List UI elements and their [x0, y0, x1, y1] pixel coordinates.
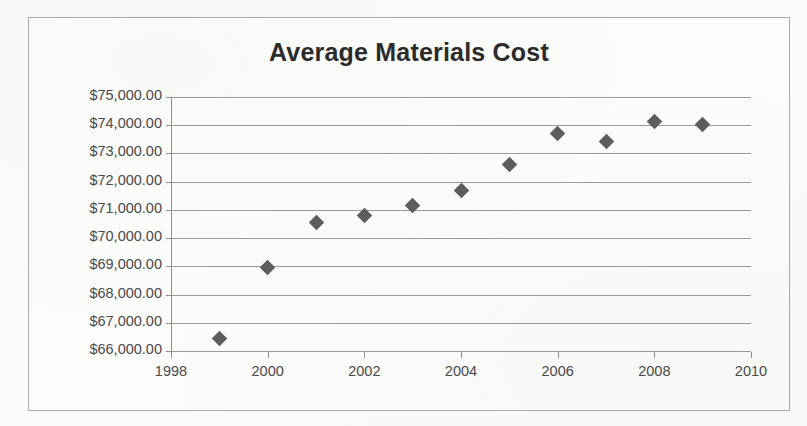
y-axis-tick — [166, 125, 172, 126]
y-axis-tick-label: $71,000.00 — [89, 200, 162, 216]
y-axis-tick — [166, 97, 172, 98]
y-axis-tick — [166, 182, 172, 183]
y-axis-tick-label: $75,000.00 — [89, 87, 162, 103]
y-axis-tick — [166, 153, 172, 154]
gridline-horizontal — [171, 266, 751, 267]
data-point-marker — [647, 114, 663, 130]
data-point-marker — [260, 260, 276, 276]
x-axis-tick-label: 1998 — [141, 363, 201, 379]
x-axis-tick-label: 2010 — [721, 363, 781, 379]
y-axis-tick-label: $67,000.00 — [89, 313, 162, 329]
data-point-marker — [308, 214, 324, 230]
x-axis-tick — [751, 352, 752, 358]
x-axis-tick — [654, 352, 655, 358]
x-axis-tick-label: 2004 — [431, 363, 491, 379]
y-axis-tick-label: $73,000.00 — [89, 143, 162, 159]
gridline-horizontal — [171, 153, 751, 154]
gridline-horizontal — [171, 238, 751, 239]
data-point-marker — [212, 330, 228, 346]
data-point-marker — [598, 133, 614, 149]
plot-area — [171, 97, 751, 351]
y-axis-tick-labels: $66,000.00$67,000.00$68,000.00$69,000.00… — [29, 18, 162, 412]
gridline-horizontal — [171, 295, 751, 296]
x-axis-tick — [171, 352, 172, 358]
x-axis-tick — [268, 352, 269, 358]
y-axis-tick-label: $70,000.00 — [89, 228, 162, 244]
gridline-horizontal — [171, 323, 751, 324]
data-point-marker — [502, 157, 518, 173]
y-axis-tick — [166, 238, 172, 239]
gridline-horizontal — [171, 125, 751, 126]
gridline-horizontal — [171, 210, 751, 211]
y-axis-tick-label: $74,000.00 — [89, 115, 162, 131]
y-axis-tick-label: $69,000.00 — [89, 256, 162, 272]
y-axis-tick — [166, 295, 172, 296]
y-axis-tick-label: $66,000.00 — [89, 341, 162, 357]
x-axis-tick-label: 2006 — [528, 363, 588, 379]
data-point-marker — [695, 117, 711, 133]
y-axis-tick — [166, 323, 172, 324]
data-point-marker — [550, 126, 566, 142]
x-axis-tick — [461, 352, 462, 358]
chart-frame: Average Materials Cost $66,000.00$67,000… — [28, 17, 790, 411]
x-axis-tick-label: 2008 — [624, 363, 684, 379]
data-point-marker — [453, 183, 469, 199]
x-axis-tick — [364, 352, 365, 358]
x-axis-tick — [558, 352, 559, 358]
y-axis-tick-label: $72,000.00 — [89, 172, 162, 188]
x-axis-tick-label: 2002 — [334, 363, 394, 379]
x-axis-tick-label: 2000 — [238, 363, 298, 379]
gridline-horizontal — [171, 97, 751, 98]
y-axis-tick — [166, 210, 172, 211]
y-axis-tick-label: $68,000.00 — [89, 285, 162, 301]
scanned-page: Average Materials Cost $66,000.00$67,000… — [0, 0, 807, 426]
y-axis-tick — [166, 266, 172, 267]
